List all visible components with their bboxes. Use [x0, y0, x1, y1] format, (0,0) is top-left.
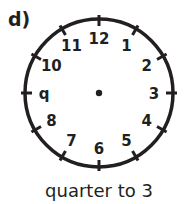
hour-numeral: 3 — [149, 85, 159, 103]
hour-numeral: 5 — [121, 132, 131, 150]
hour-numeral: 7 — [66, 132, 76, 150]
clock-face: 1212345678q1011 — [0, 0, 185, 204]
time-caption: quarter to 3 — [0, 180, 185, 201]
hour-numeral: q — [39, 85, 50, 103]
hour-numeral: 12 — [89, 30, 110, 48]
hour-numeral: 8 — [46, 112, 56, 130]
hour-numeral: 1 — [121, 37, 131, 55]
hour-numeral: 10 — [41, 57, 62, 75]
hour-numeral: 6 — [94, 140, 104, 158]
hour-numeral: 11 — [61, 37, 82, 55]
center-dot — [96, 90, 102, 96]
hour-numeral: 2 — [141, 57, 151, 75]
hour-numeral: 4 — [141, 112, 151, 130]
